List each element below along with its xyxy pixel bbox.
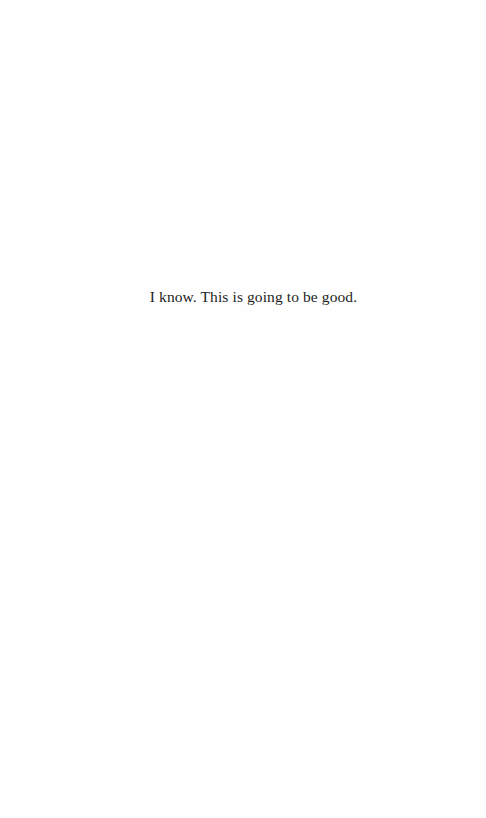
book-page: I know. This is going to be good. — [0, 0, 486, 818]
body-text-line: I know. This is going to be good. — [0, 288, 486, 306]
